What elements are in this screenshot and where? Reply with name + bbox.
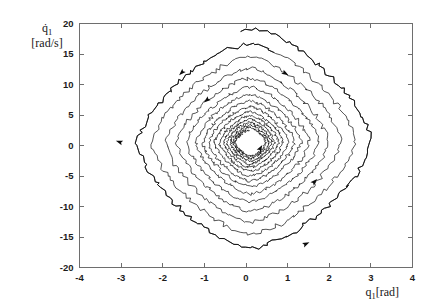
x-tick-label: -3 [117, 272, 125, 283]
y-tick-label: -15 [60, 231, 74, 242]
y-tick-label: 5 [68, 109, 74, 120]
x-tick-label: 2 [327, 272, 332, 283]
x-tick-label: -1 [200, 272, 209, 283]
y-axis-label-unit: [rad/s] [31, 36, 62, 50]
phase-portrait-figure: -4-3-2-101234 -20-15-10-505101520 q̇1 [r… [0, 0, 436, 308]
x-tick-label: 4 [410, 272, 416, 283]
x-tick-label: 0 [243, 272, 248, 283]
x-tick-label: 3 [368, 272, 373, 283]
x-tick-label: -4 [75, 272, 84, 283]
y-tick-label: 20 [63, 18, 74, 29]
y-tick-label: 15 [63, 48, 74, 59]
y-tick-label: 0 [68, 140, 73, 151]
x-tick-label: -2 [159, 272, 167, 283]
y-tick-label: 10 [63, 79, 74, 90]
y-tick-label: -5 [65, 170, 74, 181]
y-tick-label: -20 [60, 262, 74, 273]
x-axis-label: q1[rad] [365, 285, 399, 301]
x-tick-label: 1 [285, 272, 291, 283]
y-tick-label: -10 [60, 201, 74, 212]
